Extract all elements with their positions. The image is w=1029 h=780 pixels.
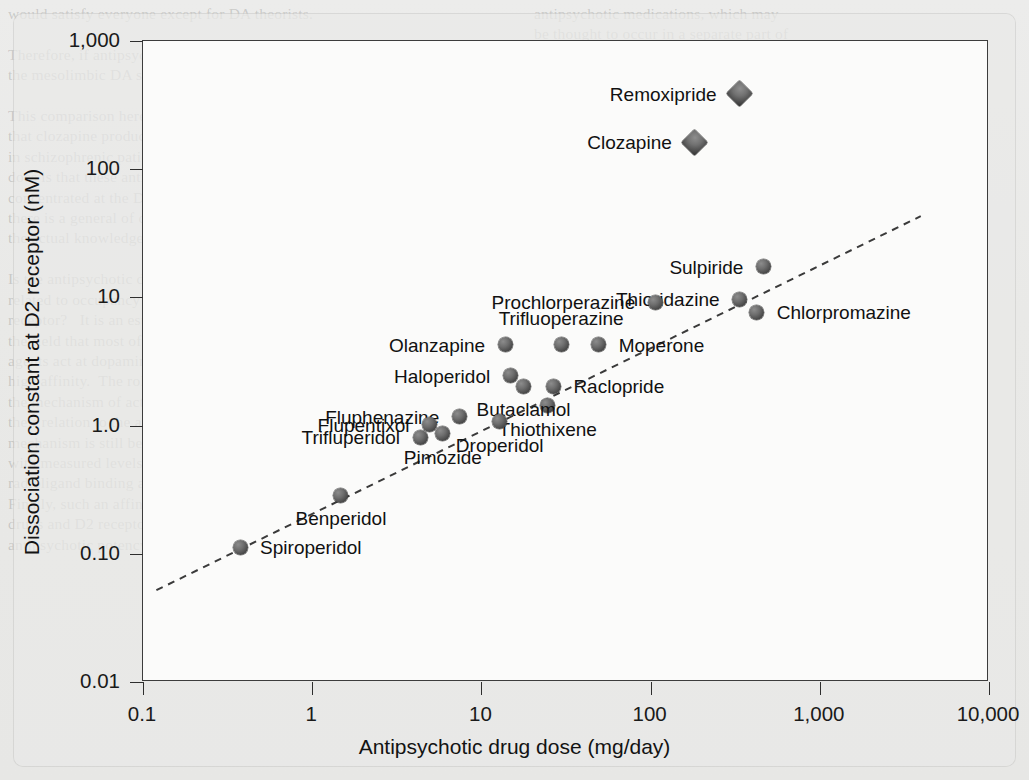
x-axis-tick [312,682,313,695]
y-axis-tick-label: 0.01 [0,669,120,693]
y-axis-tick [130,554,143,555]
data-point-marker [452,409,467,424]
data-point-label: Sulpiride [669,257,743,276]
data-point-marker [554,337,569,352]
data-point-label: Remoxipride [610,84,717,103]
data-point-marker [498,337,513,352]
y-axis-tick [130,426,143,427]
x-axis-tick-label: 0.1 [128,702,157,726]
data-point-marker [233,540,248,555]
data-point-label: Chlorpromazine [777,303,911,322]
data-point-label: Butaclamol [477,400,571,419]
data-point-marker [516,379,531,394]
x-axis-tick-label: 10,000 [957,702,1020,726]
y-axis-tick-label: 1.0 [0,413,120,437]
x-axis-tick-label: 1,000 [793,702,844,726]
x-axis-tick [820,682,821,695]
x-axis-tick [651,682,652,695]
plot-area [142,40,988,681]
data-point-marker [413,430,428,445]
data-point-label: Trifluperidol [302,428,401,447]
data-point-label: Haloperidol [394,366,490,385]
x-axis-tick-label: 100 [632,702,666,726]
data-point-label: Moperone [619,335,705,354]
y-axis-tick [130,169,143,170]
figure-root: would satisfy everyone except for DA the… [0,0,1029,780]
y-axis-tick-label: 1,000 [0,28,120,52]
data-point-marker [503,368,518,383]
data-point-label: Spiroperidol [260,538,361,557]
data-point-marker [546,379,561,394]
regression-line [143,41,989,682]
data-point-marker [732,292,747,307]
x-axis-tick-label: 1 [305,702,316,726]
data-point-label: Pimozide [404,448,482,467]
x-axis-tick [989,682,990,695]
x-axis-title: Antipsychotic drug dose (mg/day) [0,735,1029,759]
y-axis-tick [130,41,143,42]
y-axis-title: Dissociation constant at D2 receptor (nM… [20,42,44,682]
y-axis-tick-label: 0.10 [0,541,120,565]
data-point-label: Olanzapine [389,335,485,354]
x-axis-tick-label: 10 [469,702,492,726]
data-point-marker [648,295,663,310]
x-axis-tick [481,682,482,695]
data-point-label: Clozapine [587,133,672,152]
y-axis-tick-label: 100 [0,156,120,180]
data-point-label: Raclopride [573,377,664,396]
y-axis-tick-label: 10 [0,284,120,308]
y-axis-tick [130,682,143,683]
data-point-label: Benperidol [296,509,387,528]
data-point-label: Trifluoperazine [499,309,624,328]
y-axis-tick [130,297,143,298]
x-axis-tick [143,682,144,695]
